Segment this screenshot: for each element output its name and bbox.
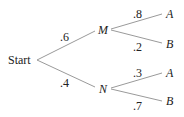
prob-m-b: .2 (133, 40, 142, 54)
prob-start-m: .6 (60, 30, 69, 44)
prob-start-n: .4 (60, 76, 69, 90)
prob-n-a: .3 (133, 66, 142, 80)
prob-n-b: .7 (133, 99, 142, 113)
prob-m-a: .8 (133, 7, 142, 21)
node-m-a: A (165, 7, 174, 21)
node-n-b: B (166, 94, 174, 108)
node-m: M (97, 23, 109, 37)
probability-tree: Start M N A B A B .6 .4 .8 .2 .3 .7 (0, 0, 184, 117)
node-n: N (98, 82, 108, 96)
node-start: Start (8, 53, 31, 67)
node-m-b: B (166, 37, 174, 51)
node-n-a: A (165, 66, 174, 80)
